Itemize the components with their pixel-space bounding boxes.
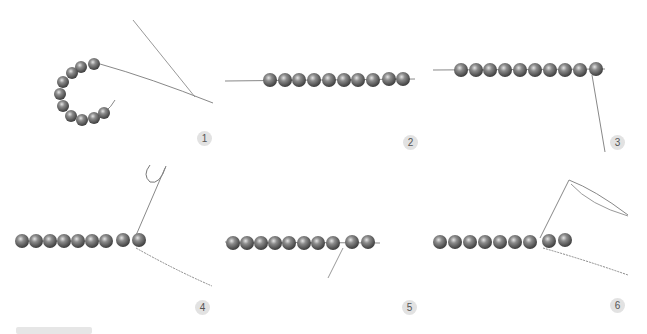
thread-through-bead-illustration xyxy=(215,160,430,320)
needle-pull-through-illustration xyxy=(425,160,647,320)
step-number-badge: 5 xyxy=(402,300,417,315)
bead-curve-illustration xyxy=(0,0,215,160)
step-number-badge: 6 xyxy=(610,298,625,313)
step-4-panel: 4 xyxy=(0,160,215,320)
bead-strand-illustration xyxy=(215,0,430,160)
step-1-panel: 1 xyxy=(0,0,215,160)
step-number-badge: 2 xyxy=(403,135,418,150)
step-3-panel: 3 xyxy=(425,0,647,160)
step-number-badge: 3 xyxy=(610,135,625,150)
step-2-panel: 2 xyxy=(215,0,430,160)
step-5-panel: 5 xyxy=(215,160,430,320)
needle-loop-illustration xyxy=(0,160,215,320)
caption-placeholder-bar xyxy=(16,327,92,334)
step-6-panel: 6 xyxy=(425,160,647,320)
step-number-badge: 4 xyxy=(195,300,210,315)
step-number-badge: 1 xyxy=(197,131,212,146)
